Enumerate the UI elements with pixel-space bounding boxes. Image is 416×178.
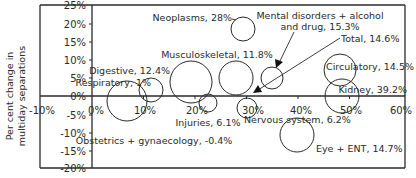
label-digestive: Digestive, 12.4% — [89, 65, 170, 76]
bubble-digestive[interactable] — [170, 61, 212, 103]
label-total: Total, 14.6% — [340, 33, 399, 44]
total-arrowhead-icon — [253, 85, 262, 93]
mental-arrow-line — [279, 32, 294, 63]
bubble-chart: Per cent change in multiday separations … — [0, 0, 416, 178]
y-axis-label: Per cent change in multiday separations — [4, 46, 27, 146]
x-tick-60: 60% — [390, 105, 412, 116]
y-tick-neg15: -15% — [60, 146, 86, 157]
y-axis-label-line1: Per cent change in — [4, 52, 15, 141]
label-musculoskeletal: Musculoskeletal, 11.8% — [161, 49, 273, 60]
label-mental-line1: Mental disorders + alcohol — [256, 10, 383, 21]
bubble-musculoskeletal[interactable] — [219, 61, 253, 95]
y-tick-25: 25% — [64, 0, 86, 11]
y-tick-0: 0% — [70, 91, 86, 102]
label-mental-line2: and drug, 15.3% — [280, 21, 359, 32]
label-injuries: Injuries, 6.1% — [176, 117, 241, 128]
x-axis — [40, 96, 405, 99]
label-kidney: Kidney, 39.2% — [338, 84, 407, 95]
y-axis-label-line2: multiday separations — [16, 46, 27, 146]
label-nervous-system: Nervous system, 6.2% — [244, 114, 351, 125]
y-tick-20: 20% — [64, 19, 86, 30]
mental-arrowhead-icon — [275, 59, 283, 68]
data-labels: Neoplasms, 28% Mental disorders + alcoho… — [75, 10, 414, 154]
label-obstetrics: Obstetrics + gynaecology, -0.4% — [76, 135, 233, 146]
label-circulatory: Circulatory, 14.5% — [326, 61, 414, 72]
label-neoplasms: Neoplasms, 28% — [152, 12, 232, 23]
y-tick-15: 15% — [64, 37, 86, 48]
y-tick-neg5: -5% — [67, 110, 86, 121]
x-tick-neg10: -10% — [29, 105, 55, 116]
x-tick-20: 20% — [186, 105, 208, 116]
y-tick-10: 10% — [64, 55, 86, 66]
x-tick-0: 0% — [88, 105, 104, 116]
bubble-neoplasms[interactable] — [231, 17, 255, 41]
y-tick-neg20: -20% — [60, 163, 86, 174]
label-respiratory: Respiratory, 1% — [75, 77, 151, 88]
label-eye-ent: Eye + ENT, 14.7% — [316, 143, 403, 154]
